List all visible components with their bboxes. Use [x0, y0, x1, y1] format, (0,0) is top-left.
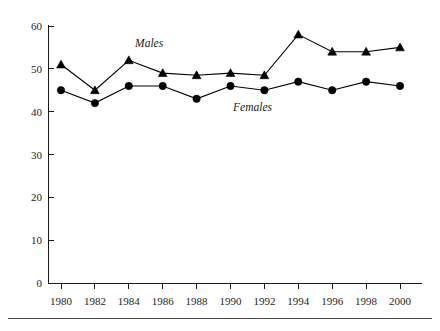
- x-axis-ticks: [61, 284, 400, 290]
- y-tick-label: 30: [31, 149, 43, 161]
- y-axis-ticks: [49, 26, 55, 283]
- data-point-males-2000: [396, 43, 405, 51]
- data-point-males-1990: [226, 69, 235, 77]
- data-point-females-1992: [261, 87, 268, 94]
- y-axis-tick-labels: 0102030405060: [31, 20, 43, 289]
- series-annotation-females: Females: [232, 101, 272, 113]
- data-series-layer: [57, 30, 405, 107]
- data-point-males-1994: [294, 30, 303, 38]
- x-tick-label: 1988: [186, 295, 209, 307]
- data-point-females-1982: [91, 99, 98, 106]
- data-point-females-1994: [295, 78, 302, 85]
- x-tick-label: 1996: [321, 295, 344, 307]
- x-tick-label: 1982: [84, 295, 106, 307]
- y-tick-label: 60: [31, 20, 43, 32]
- y-tick-label: 10: [31, 234, 43, 246]
- data-point-females-1984: [125, 82, 132, 89]
- x-tick-label: 1984: [118, 295, 141, 307]
- y-tick-label: 20: [31, 191, 43, 203]
- data-point-females-2000: [396, 82, 403, 89]
- series-annotation-males: Males: [134, 37, 164, 49]
- y-tick-label: 0: [37, 277, 43, 289]
- x-tick-label: 1998: [355, 295, 378, 307]
- x-tick-label: 1994: [287, 295, 310, 307]
- x-axis-tick-labels: 1980198219841986198819901992199419961998…: [50, 295, 412, 307]
- data-point-females-1988: [193, 95, 200, 102]
- data-point-females-1980: [57, 87, 64, 94]
- data-point-females-1996: [329, 87, 336, 94]
- data-point-males-1980: [57, 60, 66, 68]
- x-tick-label: 1980: [50, 295, 73, 307]
- series-line-males: [61, 35, 400, 91]
- chart-svg: 0102030405060 19801982198419861988199019…: [0, 0, 440, 331]
- x-tick-label: 2000: [389, 295, 412, 307]
- data-point-males-1984: [124, 56, 133, 64]
- data-point-females-1998: [362, 78, 369, 85]
- x-tick-label: 1986: [152, 295, 175, 307]
- x-tick-label: 1990: [220, 295, 243, 307]
- data-point-males-1986: [158, 69, 167, 77]
- series-females: [57, 78, 403, 107]
- data-point-females-1986: [159, 82, 166, 89]
- y-tick-label: 40: [31, 106, 43, 118]
- x-tick-label: 1992: [253, 295, 275, 307]
- line-chart: 0102030405060 19801982198419861988199019…: [0, 0, 440, 331]
- data-point-females-1990: [227, 82, 234, 89]
- y-tick-label: 50: [31, 63, 43, 75]
